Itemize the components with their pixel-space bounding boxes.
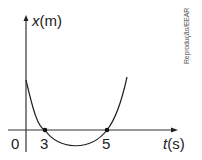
root-point-3 (43, 128, 48, 133)
tick-label-3: 3 (40, 136, 48, 151)
y-axis-label: x(m) (32, 13, 62, 28)
origin-label: 0 (11, 136, 19, 151)
x-axis-label: t(s) (163, 136, 185, 151)
y-axis-arrow-icon (24, 15, 29, 21)
credit-text: Reprodução/EEAR (183, 8, 190, 64)
x-axis-arrow-icon (171, 128, 178, 133)
tick-label-5: 5 (102, 136, 110, 151)
root-point-5 (105, 128, 110, 133)
